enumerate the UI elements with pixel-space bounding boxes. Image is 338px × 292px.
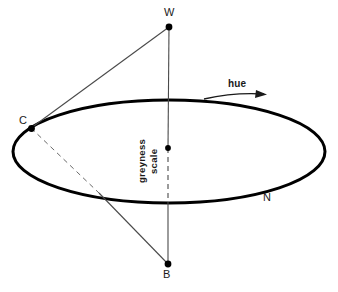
greyness-scale-label-line2: scale <box>149 149 159 174</box>
equator-ellipse <box>13 100 325 203</box>
chroma-point-dot <box>28 125 35 132</box>
neutral-point-label: N <box>263 192 271 203</box>
black-vertex-label: B <box>163 269 171 280</box>
chroma-point-label: C <box>19 115 27 126</box>
centre-point-dot <box>165 145 171 151</box>
hue-arrowhead-icon <box>255 90 267 98</box>
white-vertex-dot <box>166 24 173 31</box>
hue-arrow <box>204 94 264 99</box>
axis-upper-segment <box>168 27 169 148</box>
hue-arrow-label: hue <box>228 79 246 89</box>
greyness-scale-label-line1: greyness <box>137 139 147 183</box>
colour-solid-diagram <box>0 0 338 292</box>
white-vertex-label: W <box>164 7 175 18</box>
chroma-to-white-line <box>31 27 169 128</box>
chroma-to-black-hidden-line <box>31 128 99 193</box>
black-vertex-dot <box>165 261 172 268</box>
